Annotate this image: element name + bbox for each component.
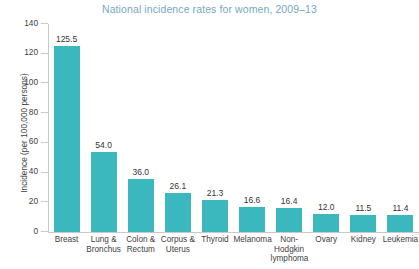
x-axis-label: Melanoma (234, 235, 271, 245)
y-tick: 20 (41, 201, 48, 202)
x-axis-label: Non-Hodgkinlymphoma (271, 235, 308, 264)
x-axis-label-line: lymphoma (271, 254, 308, 264)
bar[interactable] (350, 215, 376, 232)
x-axis-label: Lung &Bronchus (85, 235, 122, 254)
y-tick: 120 (41, 53, 48, 54)
x-axis-label-line: Hodgkin (271, 245, 308, 255)
y-tick-label: 140 (24, 18, 38, 28)
bar-value-label: 36.0 (132, 167, 149, 177)
bar-value-label: 12.0 (318, 202, 335, 212)
bar[interactable] (202, 200, 228, 232)
y-tick: 100 (41, 82, 48, 83)
y-axis-title: Incidence (per 100,000 persons) (19, 33, 29, 233)
x-axis-label-line: Leukemia (382, 235, 419, 245)
bar-value-label: 21.3 (207, 188, 224, 198)
x-axis-label: Ovary (308, 235, 345, 245)
bar-slot[interactable]: 12.0 (308, 24, 345, 232)
bar-slot[interactable]: 26.1 (159, 24, 196, 232)
bar[interactable] (54, 46, 80, 232)
y-tick-label: 20 (29, 196, 38, 206)
y-tick: 60 (41, 142, 48, 143)
y-tick: 0 (41, 231, 48, 232)
x-axis-label-line: Kidney (345, 235, 382, 245)
x-axis-label-line: Melanoma (234, 235, 271, 245)
bar[interactable] (239, 207, 265, 232)
x-axis-label-line: Non- (271, 235, 308, 245)
bar[interactable] (313, 214, 339, 232)
y-tick: 140 (41, 23, 48, 24)
bar-value-label: 125.5 (56, 34, 77, 44)
x-axis-label-line: Bronchus (85, 245, 122, 255)
x-axis-label: Breast (48, 235, 85, 245)
x-axis-label-line: Breast (48, 235, 85, 245)
x-axis-label: Corpus &Uterus (159, 235, 196, 254)
bar-value-label: 11.4 (392, 203, 408, 213)
x-axis-line (48, 232, 419, 233)
bar-slot[interactable]: 54.0 (85, 24, 122, 232)
bar[interactable] (276, 208, 302, 232)
bar-slot[interactable]: 11.5 (345, 24, 382, 232)
bar-slot[interactable]: 16.4 (271, 24, 308, 232)
x-axis-label-line: Colon & (122, 235, 159, 245)
bar-value-label: 16.4 (281, 196, 298, 206)
y-tick-label: 0 (33, 226, 38, 236)
x-axis-label: Leukemia (382, 235, 419, 245)
x-axis-label: Thyroid (196, 235, 233, 245)
x-axis-label: Colon &Rectum (122, 235, 159, 254)
y-tick-label: 40 (29, 166, 38, 176)
bar-slot[interactable]: 16.6 (234, 24, 271, 232)
bar-slot[interactable]: 125.5 (48, 24, 85, 232)
bar[interactable] (91, 152, 117, 232)
y-tick: 80 (41, 112, 48, 113)
x-axis-label-line: Corpus & (159, 235, 196, 245)
bar-slot[interactable]: 21.3 (196, 24, 233, 232)
y-tick: 40 (41, 172, 48, 173)
plot-area: 020406080100120140 125.554.036.026.121.3… (48, 24, 419, 232)
bar[interactable] (387, 215, 413, 232)
x-axis-label-line: Rectum (122, 245, 159, 255)
x-axis-label: Kidney (345, 235, 382, 245)
bar-value-label: 26.1 (170, 181, 187, 191)
x-axis-label-line: Thyroid (196, 235, 233, 245)
bar-slot[interactable]: 11.4 (382, 24, 419, 232)
y-tick-label: 100 (24, 77, 38, 87)
x-axis-label-line: Uterus (159, 245, 196, 255)
bar-value-label: 54.0 (95, 140, 112, 150)
y-tick-label: 60 (29, 136, 38, 146)
bar-value-label: 11.5 (355, 203, 371, 213)
chart-title: National incidence rates for women, 2009… (0, 3, 419, 15)
chart-figure: National incidence rates for women, 2009… (0, 0, 419, 269)
x-axis-label-line: Lung & (85, 235, 122, 245)
y-tick-label: 80 (29, 107, 38, 117)
bar-value-label: 16.6 (244, 195, 261, 205)
bar[interactable] (128, 179, 154, 232)
y-tick-label: 120 (24, 47, 38, 57)
bar-slot[interactable]: 36.0 (122, 24, 159, 232)
x-axis-label-line: Ovary (308, 235, 345, 245)
bar[interactable] (165, 193, 191, 232)
